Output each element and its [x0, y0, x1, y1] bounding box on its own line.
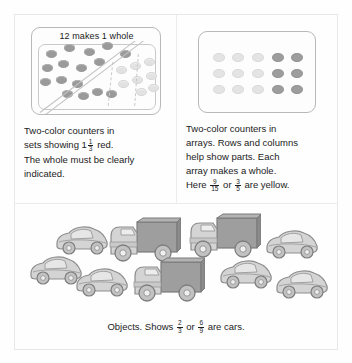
objects-caption: Objects. Shows 2 3 or 6 9 are cars. [15, 320, 337, 334]
red-counter [102, 42, 113, 50]
sets-caption-line-2: sets showing 1 1 3 red. [24, 138, 167, 153]
array-caption-line-3: help show parts. Each [186, 150, 328, 164]
yellow-array-counter [213, 85, 225, 94]
red-counter [92, 88, 103, 96]
red-counter [40, 78, 51, 86]
yellow-array-counter [213, 69, 225, 78]
yellow-array-counter [252, 85, 264, 94]
fraction-models-table: 12 makes 1 whole Two-color counters in s… [14, 14, 338, 350]
yellow-counter [146, 72, 157, 80]
array-caption-tail: are yellow. [244, 179, 289, 190]
table-row-top: 12 makes 1 whole Two-color counters in s… [15, 15, 337, 203]
yellow-array-counter [213, 53, 225, 62]
red-array-counter [291, 85, 303, 94]
objects-fraction-1-numerator: 2 [177, 320, 183, 327]
red-counter [78, 92, 89, 100]
figure-page: 12 makes 1 whole Two-color counters in s… [0, 0, 352, 363]
mixed-number-whole: 1 [82, 139, 87, 150]
red-array-counter [272, 53, 284, 62]
yellow-array-counter [252, 69, 264, 78]
red-array-counter [272, 85, 284, 94]
red-counter [42, 64, 53, 72]
objects-fraction-two-thirds: 2 3 [177, 320, 183, 334]
red-counter [106, 90, 117, 98]
array-caption-line-4: array makes a whole. [186, 164, 328, 178]
red-counter [76, 64, 87, 72]
red-counter [64, 44, 75, 52]
sets-caption: Two-color counters in sets showing 1 1 3… [24, 124, 167, 181]
objects-caption-suffix: are cars. [208, 321, 245, 332]
objects-caption-prefix: Objects. Shows [107, 321, 173, 332]
cell-counters-in-sets: 12 makes 1 whole Two-color counters in s… [15, 15, 177, 203]
yellow-counter [144, 58, 155, 66]
yellow-counter [116, 66, 127, 74]
array-fraction-nine-fifteenths: 9 15 [210, 179, 219, 193]
car-icon [217, 256, 275, 294]
objects-caption-conjunction: or [186, 321, 194, 332]
truck-icon [127, 256, 205, 312]
red-array-counter [291, 69, 303, 78]
yellow-array-counter [232, 69, 244, 78]
sets-caption-text-2: sets showing [24, 139, 79, 150]
red-counter [56, 76, 67, 84]
sets-caption-line-1: Two-color counters in [24, 124, 167, 138]
yellow-counter [136, 88, 147, 96]
red-counter [84, 48, 95, 56]
whole-label: 12 makes 1 whole [40, 31, 154, 41]
cell-counters-in-arrays: Two-color counters in arrays. Rows and c… [177, 15, 337, 203]
yellow-counter [118, 80, 129, 88]
red-array-counter [272, 69, 284, 78]
sets-caption-line-4: indicated. [24, 167, 167, 181]
yellow-counter [130, 62, 141, 70]
sets-model-box: 12 makes 1 whole [31, 27, 161, 115]
counter-array-grid [209, 49, 307, 97]
sets-caption-text-3: red. [97, 139, 113, 150]
array-caption-line-2: arrays. Rows and columns [186, 136, 328, 150]
vehicle-scene [15, 204, 337, 316]
car-icon [273, 266, 331, 304]
array-fraction-1-denominator: 15 [210, 185, 219, 193]
yellow-array-counter [232, 53, 244, 62]
yellow-array-counter [232, 85, 244, 94]
array-caption-or: or [223, 179, 231, 190]
mixed-number-fraction: 1 3 [88, 139, 94, 153]
array-model-box [198, 31, 316, 113]
cell-objects: Objects. Shows 2 3 or 6 9 are cars. [15, 203, 337, 350]
mixed-number-denominator: 3 [88, 145, 94, 153]
array-caption: Two-color counters in arrays. Rows and c… [186, 122, 328, 193]
car-icon [73, 264, 131, 302]
objects-fraction-1-denominator: 3 [177, 327, 183, 335]
objects-fraction-2-denominator: 9 [198, 327, 204, 335]
array-caption-line-5: Here 9 15 or 3 5 are yellow. [186, 178, 328, 193]
yellow-array-counter [252, 53, 264, 62]
array-fraction-three-fifths: 3 5 [235, 179, 241, 193]
yellow-counter [148, 84, 159, 92]
array-caption-line-1: Two-color counters in [186, 122, 328, 136]
objects-fraction-six-ninths: 6 9 [198, 320, 204, 334]
red-counter [46, 50, 57, 58]
sets-caption-line-3: The whole must be clearly [24, 153, 167, 167]
array-caption-here: Here [186, 179, 207, 190]
array-fraction-2-denominator: 5 [235, 185, 241, 193]
red-counter [58, 60, 69, 68]
red-array-counter [291, 53, 303, 62]
